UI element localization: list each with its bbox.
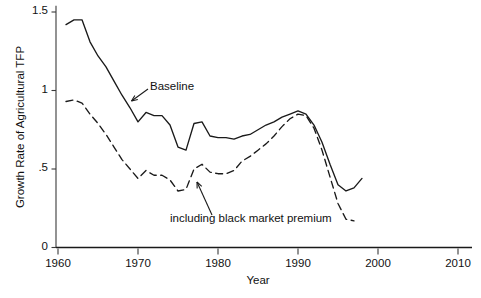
arrow-baseline xyxy=(132,89,149,101)
plot-canvas xyxy=(0,0,481,298)
x-tick-label: 2010 xyxy=(428,257,481,269)
x-tick-label: 2000 xyxy=(348,257,408,269)
x-tick-label: 1990 xyxy=(268,257,328,269)
x-tick-label: 1980 xyxy=(188,257,248,269)
x-axis-title: Year xyxy=(228,274,288,286)
chart-figure: 0 .5 1 1.5 1960 1970 1980 1990 2000 2010… xyxy=(0,0,481,298)
y-axis-title: Growth Rate of Agricultural TFP xyxy=(14,46,26,208)
y-axis-title-wrapper: Growth Rate of Agricultural TFP xyxy=(10,12,28,242)
arrow-black-market-premium xyxy=(197,182,212,215)
annotation-arrows xyxy=(132,89,213,215)
x-tick-label: 1960 xyxy=(28,257,88,269)
data-series-group xyxy=(66,20,362,221)
annotation-label-black-market-premium: including black market premium xyxy=(170,212,332,224)
series-line-baseline xyxy=(66,20,362,191)
annotation-label-baseline: Baseline xyxy=(150,80,194,92)
series-line-black-market-premium xyxy=(66,100,354,221)
x-tick-label: 1970 xyxy=(108,257,168,269)
